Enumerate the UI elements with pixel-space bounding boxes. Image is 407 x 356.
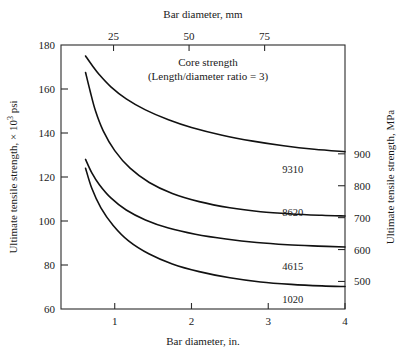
x-tick-label: 4 [342,315,348,327]
y-tick-label: 60 [44,303,56,315]
x-axis-title-bottom: Bar diameter, in. [166,335,240,347]
curve-label-9310: 9310 [282,164,303,175]
y-tick-label: 160 [39,83,56,95]
tensile-strength-chart: 1234 255075 6080100120140160180 50060070… [0,0,407,356]
y-tick-label: 180 [39,39,56,51]
annotation-line-2: (Length/diameter ratio = 3) [148,70,268,83]
x-axis-title-top: Bar diameter, mm [163,8,243,20]
curve-label-8620: 8620 [282,207,303,218]
y-axis-title-left-text: Ultimate tensile strength, [7,140,19,254]
y-tick-right-label: 900 [354,148,371,160]
annotation-line-1: Core strength [178,56,238,68]
y-tick-right-label: 600 [354,244,371,256]
curve-label-1020: 1020 [282,294,303,305]
y-tick-right-label: 700 [354,212,371,224]
y-tick-label: 100 [39,215,56,227]
x-tick-top-label: 50 [184,30,196,42]
chart-figure: 1234 255075 6080100120140160180 50060070… [0,0,407,356]
x-tick-label: 1 [112,315,118,327]
y-tick-label: 80 [44,259,56,271]
x-tick-label: 3 [265,315,271,327]
curve-label-4615: 4615 [282,261,303,272]
x-tick-top-label: 75 [259,30,271,42]
y-tick-right-label: 500 [354,275,371,287]
y-tick-label: 140 [39,127,56,139]
y-tick-label: 120 [39,171,56,183]
y-tick-right-label: 800 [354,180,371,192]
y-axis-title-right: Ultimate tensile strength, MPa [384,110,396,245]
x-tick-label: 2 [189,315,195,327]
x-tick-top-label: 25 [108,30,120,42]
y-axis-title-left: Ultimate tensile strength, × 103 psi [6,100,20,253]
